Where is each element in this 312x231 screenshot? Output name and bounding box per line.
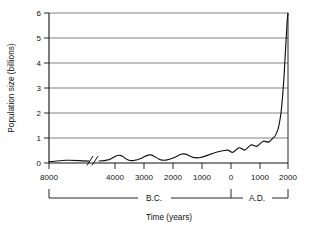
x-axis-title: Time (years) [146, 212, 192, 222]
x-tick-label-3000bc: 3000 [135, 173, 153, 182]
y-tick-label-2: 2 [37, 109, 42, 118]
era-label-bc: B.C. [146, 193, 162, 203]
y-tick-label-3: 3 [37, 84, 42, 93]
x-tick-label-2000bc: 2000 [164, 173, 182, 182]
chart-canvas: 6 5 4 3 2 1 0 Population size (billions)… [0, 0, 312, 231]
y-tick-label-0: 0 [37, 159, 42, 168]
y-tick-label-1: 1 [37, 134, 42, 143]
population-curve [49, 13, 288, 162]
x-tick-labels: 8000 4000 3000 2000 1000 0 1000 2000 [40, 173, 297, 182]
y-tick-label-4: 4 [37, 59, 42, 68]
gridlines [49, 13, 288, 138]
y-tick-label-6: 6 [37, 9, 42, 18]
x-ticks [49, 163, 288, 169]
x-tick-label-4000bc: 4000 [106, 173, 124, 182]
ad-bracket-right [272, 189, 288, 198]
era-label-ad: A.D. [249, 193, 265, 203]
axis-break-slash-2 [92, 156, 98, 166]
bc-bracket-left [49, 189, 138, 198]
y-tick-label-5: 5 [37, 34, 42, 43]
x-tick-label-1000bc: 1000 [193, 173, 211, 182]
x-tick-label-0: 0 [229, 173, 234, 182]
x-tick-label-8000bc: 8000 [40, 173, 58, 182]
population-growth-chart: 6 5 4 3 2 1 0 Population size (billions)… [0, 0, 312, 231]
y-axis-title: Population size (billions) [6, 43, 16, 133]
bc-bracket-right [171, 189, 231, 198]
y-tick-labels: 6 5 4 3 2 1 0 [37, 9, 42, 168]
x-tick-label-2000ad: 2000 [279, 173, 297, 182]
x-tick-label-1000ad: 1000 [251, 173, 269, 182]
y-ticks [44, 13, 49, 163]
